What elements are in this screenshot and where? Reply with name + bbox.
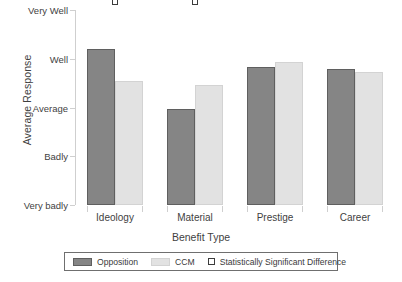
y-tick-label: Very Well xyxy=(28,5,68,16)
bar-prestige-opposition xyxy=(247,67,275,205)
x-tick-label-career: Career xyxy=(340,212,371,223)
bar-prestige-ccm xyxy=(275,62,303,205)
legend-label-opposition: Opposition xyxy=(97,257,138,267)
bar-career-opposition xyxy=(327,69,355,205)
y-tick-mark xyxy=(70,156,75,157)
y-axis-line xyxy=(75,10,76,205)
bar-career-ccm xyxy=(355,72,383,205)
legend-item-significance[interactable]: Statistically Significant Difference xyxy=(208,257,346,267)
legend-item-opposition[interactable]: Opposition xyxy=(73,257,138,267)
y-axis-title: Average Response xyxy=(21,15,33,185)
significance-marker-material-icon xyxy=(192,0,198,5)
bar-ideology-ccm xyxy=(115,81,143,205)
open-square-marker-icon xyxy=(208,258,215,265)
bar-material-ccm xyxy=(195,85,223,205)
legend-label-ccm: CCM xyxy=(175,257,195,267)
y-tick-mark xyxy=(70,108,75,109)
legend-swatch-ccm-icon xyxy=(151,258,170,266)
x-tick-label-prestige: Prestige xyxy=(257,212,294,223)
x-tick-label-ideology: Ideology xyxy=(96,212,134,223)
legend-item-ccm[interactable]: CCM xyxy=(151,257,195,267)
y-tick-label: Badly xyxy=(44,151,68,162)
y-tick-label: Well xyxy=(50,53,68,64)
y-tick-mark xyxy=(70,59,75,60)
significance-marker-ideology-icon xyxy=(112,0,118,5)
legend-swatch-opposition-icon xyxy=(73,258,92,266)
y-tick-label: Very badly xyxy=(24,200,68,211)
chart-legend: Opposition CCM Statistically Significant… xyxy=(64,252,338,271)
y-tick-mark xyxy=(70,10,75,11)
x-tick-label-material: Material xyxy=(177,212,213,223)
bar-material-opposition xyxy=(167,109,195,205)
bar-ideology-opposition xyxy=(87,49,115,205)
y-tick-label: Average xyxy=(33,102,68,113)
plot-area: Very WellWellAverageBadlyVery badly xyxy=(75,10,395,205)
legend-label-significance: Statistically Significant Difference xyxy=(220,257,346,267)
x-axis-title: Benefit Type xyxy=(0,231,402,243)
bar-chart: Average Response Very WellWellAverageBad… xyxy=(0,0,402,282)
